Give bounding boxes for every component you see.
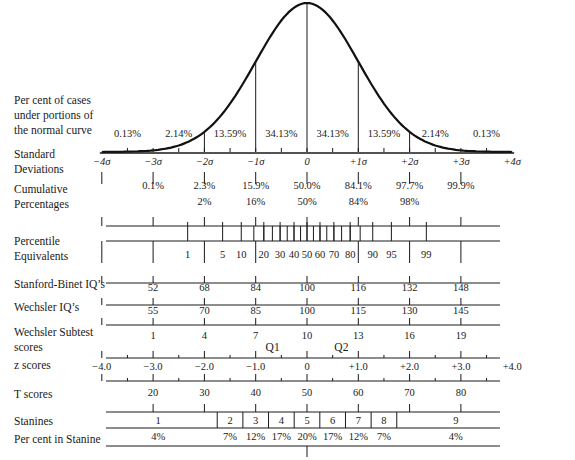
z-tick-label: −4.0 bbox=[92, 361, 111, 372]
percent-under-curve-value: 13.59% bbox=[368, 128, 401, 139]
stanford-binet-label: Stanford-Binet IQ’s bbox=[14, 278, 106, 290]
percentile-equivalents-label: Percentile bbox=[14, 235, 60, 247]
sd-tick-label: +1σ bbox=[350, 156, 368, 167]
cumulative-percentages-label: Percentages bbox=[14, 198, 69, 211]
percentile-tick-label: 80 bbox=[345, 249, 356, 260]
quartile-2-label: Q2 bbox=[334, 341, 348, 353]
stanford-binet-tick-label: 116 bbox=[351, 282, 366, 293]
cumulative-rounded-value: 50% bbox=[297, 196, 317, 207]
wechsler-iq-label: Wechsler IQ’s bbox=[14, 301, 80, 313]
t-tick-label: 80 bbox=[456, 387, 467, 398]
percent-under-curve-value: 34.13% bbox=[265, 128, 298, 139]
t-tick-label: 40 bbox=[250, 387, 261, 398]
sd-tick-label: 0 bbox=[304, 156, 310, 167]
stanine-percent-value: 20% bbox=[297, 431, 317, 442]
wechsler-subtest-tick-label: 13 bbox=[353, 330, 364, 341]
percentile-tick-label: 20 bbox=[259, 249, 270, 260]
stanford-binet-tick-label: 132 bbox=[402, 282, 418, 293]
stanine-value: 7 bbox=[356, 415, 361, 426]
sd-tick-label: +3σ bbox=[452, 156, 470, 167]
percentile-tick-label: 1 bbox=[185, 249, 190, 260]
percent-under-curve-value: 2.14% bbox=[165, 128, 192, 139]
stanine-value: 4 bbox=[279, 415, 285, 426]
t-tick-label: 20 bbox=[148, 387, 159, 398]
stanford-binet-tick-label: 52 bbox=[148, 282, 159, 293]
wechsler-subtest-label: Wechsler Subtest bbox=[14, 326, 94, 338]
z-tick-label: +4.0 bbox=[503, 361, 522, 372]
wechsler-subtest-tick-label: 4 bbox=[202, 330, 208, 341]
stanine-percent-value: 12% bbox=[246, 431, 266, 442]
wechsler-subtest-tick-label: 7 bbox=[253, 330, 258, 341]
z-tick-label: −1.0 bbox=[246, 361, 265, 372]
percentile-equivalents-label: Equivalents bbox=[14, 250, 69, 263]
percentile-tick-label: 30 bbox=[275, 249, 286, 260]
stanine-value: 3 bbox=[253, 415, 258, 426]
percent-under-curve-label: the normal curve bbox=[14, 124, 92, 136]
z-tick-label: +3.0 bbox=[451, 361, 470, 372]
percent-under-curve-value: 0.13% bbox=[473, 128, 500, 139]
wechsler-iq-tick-label: 70 bbox=[199, 305, 210, 316]
percent-under-curve-value: 0.13% bbox=[114, 128, 141, 139]
wechsler-iq-tick-label: 145 bbox=[453, 305, 469, 316]
percent-under-curve-label: under portions of bbox=[14, 109, 93, 122]
wechsler-iq-tick-label: 85 bbox=[250, 305, 261, 316]
cumulative-rounded-value: 98% bbox=[400, 196, 420, 207]
t-tick-label: 50 bbox=[302, 387, 313, 398]
sd-tick-label: −2σ bbox=[196, 156, 214, 167]
cumulative-percent-value: 99.9% bbox=[447, 180, 474, 191]
cumulative-rounded-value: 84% bbox=[349, 196, 369, 207]
standard-deviations-label: Standard bbox=[14, 148, 55, 160]
quartile-1-label: Q1 bbox=[266, 341, 280, 353]
stanine-percent-value: 7% bbox=[377, 431, 391, 442]
stanine-value: 6 bbox=[330, 415, 335, 426]
percentile-tick-label: 50 bbox=[302, 249, 313, 260]
standard-deviations-label: Deviations bbox=[14, 163, 64, 175]
cumulative-percentages-label: Cumulative bbox=[14, 183, 68, 195]
cumulative-percent-value: 0.1% bbox=[142, 180, 164, 191]
stanford-binet-tick-label: 84 bbox=[250, 282, 261, 293]
wechsler-subtest-label: scores bbox=[14, 341, 43, 353]
cumulative-rounded-value: 2% bbox=[197, 196, 211, 207]
z-tick-label: +2.0 bbox=[400, 361, 419, 372]
percentile-tick-label: 70 bbox=[329, 249, 340, 260]
wechsler-iq-tick-label: 55 bbox=[148, 305, 159, 316]
cumulative-rounded-value: 16% bbox=[246, 196, 266, 207]
z-scores-label: z scores bbox=[14, 359, 51, 371]
wechsler-subtest-tick-label: 19 bbox=[456, 330, 467, 341]
cumulative-percent-value: 2.3% bbox=[193, 180, 215, 191]
cumulative-percent-value: 15.9% bbox=[242, 180, 269, 191]
z-tick-label: 0 bbox=[304, 361, 309, 372]
percentile-tick-label: 10 bbox=[236, 249, 247, 260]
stanford-binet-tick-label: 68 bbox=[199, 282, 210, 293]
stanine-percent-value: 12% bbox=[349, 431, 369, 442]
stanford-binet-tick-label: 100 bbox=[299, 282, 315, 293]
sd-tick-label: −3σ bbox=[144, 156, 162, 167]
z-tick-label: +1.0 bbox=[349, 361, 368, 372]
percentile-tick-label: 99 bbox=[421, 249, 432, 260]
percent-under-curve-value: 13.59% bbox=[214, 128, 247, 139]
cumulative-percent-value: 97.7% bbox=[396, 180, 423, 191]
stanines-label: Stanines bbox=[14, 415, 53, 427]
percent-in-stanine-label: Per cent in Stanine bbox=[14, 433, 101, 445]
wechsler-subtest-tick-label: 10 bbox=[302, 330, 313, 341]
z-tick-label: −3.0 bbox=[144, 361, 163, 372]
stanine-percent-value: 7% bbox=[223, 431, 237, 442]
stanine-value: 2 bbox=[227, 415, 232, 426]
percent-under-curve-value: 34.13% bbox=[316, 128, 349, 139]
cumulative-percent-value: 50.0% bbox=[293, 180, 320, 191]
sd-tick-label: +4σ bbox=[503, 156, 521, 167]
percentile-tick-label: 40 bbox=[289, 249, 300, 260]
t-scores-label: T scores bbox=[14, 388, 53, 400]
t-tick-label: 70 bbox=[404, 387, 415, 398]
stanford-binet-tick-label: 148 bbox=[453, 282, 469, 293]
z-tick-label: −2.0 bbox=[195, 361, 214, 372]
stanine-value: 1 bbox=[156, 415, 161, 426]
wechsler-iq-tick-label: 100 bbox=[299, 305, 315, 316]
stanine-percent-value: 17% bbox=[272, 431, 292, 442]
percentile-tick-label: 60 bbox=[315, 249, 326, 260]
percentile-tick-label: 90 bbox=[367, 249, 378, 260]
stanine-percent-value: 17% bbox=[323, 431, 343, 442]
stanine-percent-value: 4% bbox=[449, 431, 463, 442]
percent-under-curve-label: Per cent of cases bbox=[14, 94, 91, 106]
t-tick-label: 60 bbox=[353, 387, 364, 398]
